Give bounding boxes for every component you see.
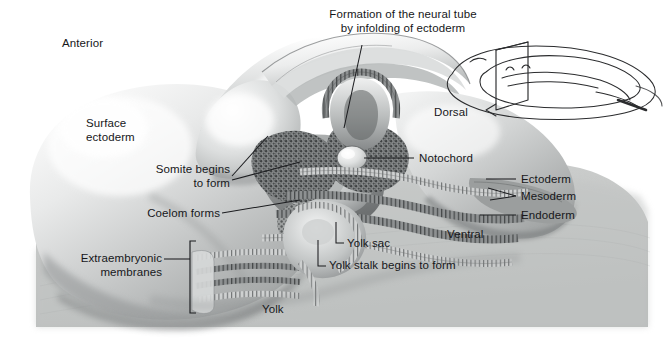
label-yolk-stalk: Yolk stalk begins to form [329,259,456,273]
label-ventral: Ventral [447,228,484,242]
label-anterior: Anterior [62,37,103,51]
label-extraembryonic-membranes: Extraembryonic membranes [28,252,162,279]
label-neural-tube: Formation of the neural tube by infoldin… [308,8,498,35]
label-notochord: Notochord [419,152,473,166]
label-endoderm: Endoderm [521,209,575,223]
label-surface-ectoderm: Surface ectoderm [86,117,135,144]
embryo-development-figure: Anterior Surface ectoderm Somite begins … [0,0,670,357]
label-coelom: Coelom forms [112,207,220,221]
label-ectoderm: Ectoderm [521,173,571,187]
notochord [337,146,367,170]
label-yolk: Yolk [262,303,284,317]
label-dorsal: Dorsal [434,106,468,120]
label-mesoderm: Mesoderm [521,190,576,204]
label-yolk-sac: Yolk sac [347,237,390,251]
label-somite: Somite begins to form [112,163,230,190]
